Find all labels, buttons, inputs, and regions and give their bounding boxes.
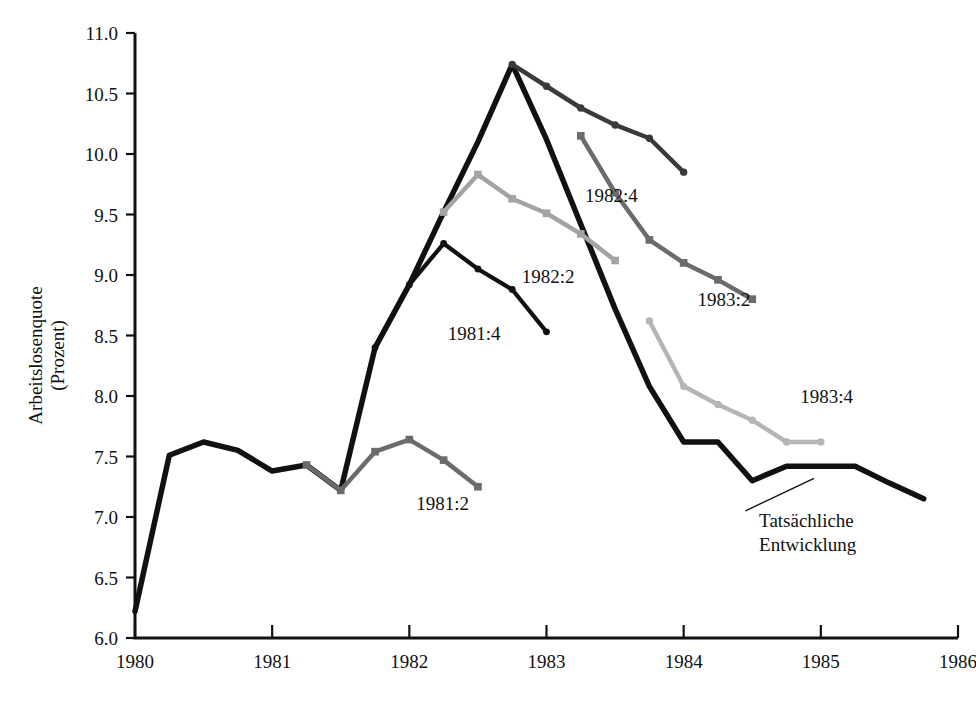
series-marker-square: [577, 132, 585, 140]
x-tick-label: 1983: [528, 651, 566, 672]
label-leader-line: [745, 478, 814, 511]
series-marker-square: [714, 276, 722, 284]
series-marker-circle: [714, 401, 721, 408]
series-marker-circle: [646, 135, 653, 142]
series-marker-square: [474, 483, 482, 491]
series-label-1983-2: 1983:2: [697, 289, 750, 310]
series-line: [581, 136, 752, 299]
series-marker-square: [337, 487, 345, 495]
x-tick-label: 1980: [116, 651, 154, 672]
axes-group: 11.010.510.09.59.08.58.07.57.06.56.01980…: [25, 23, 976, 672]
series-marker-square: [543, 209, 551, 217]
series-marker-square: [371, 448, 379, 456]
series-marker-circle: [611, 121, 618, 128]
y-tick-label: 6.0: [94, 628, 118, 649]
series-marker-square: [440, 456, 448, 464]
series-marker-square: [474, 171, 482, 179]
series-marker-square: [577, 230, 585, 238]
series-marker-circle: [680, 383, 687, 390]
y-axis-title-line1: Arbeitslosenquote: [25, 286, 46, 424]
series-label-1983-4: 1983:4: [800, 386, 853, 407]
series-marker-circle: [440, 240, 447, 247]
y-axis-title: Arbeitslosenquote(Prozent): [25, 286, 69, 424]
series-marker-circle: [577, 104, 584, 111]
series-marker-circle: [509, 286, 516, 293]
series-marker-square: [611, 257, 619, 265]
x-tick-label: 1982: [390, 651, 428, 672]
series-labels-group: TatsächlicheEntwicklung1981:21981:41982:…: [416, 185, 857, 554]
series-marker-circle: [680, 168, 687, 175]
series-marker-circle: [543, 328, 550, 335]
series-marker-circle: [509, 61, 516, 68]
series-marker-circle: [749, 417, 756, 424]
series-marker-circle: [646, 317, 653, 324]
y-tick-label: 10.5: [85, 84, 118, 105]
series-marker-circle: [372, 344, 379, 351]
series-marker-square: [440, 208, 448, 216]
series-marker-square: [646, 236, 654, 244]
series-marker-square: [406, 436, 414, 444]
series-marker-square: [680, 259, 688, 267]
series-label-tats-chliche-entwicklung-line2: Entwicklung: [759, 534, 857, 555]
y-tick-label: 8.0: [94, 386, 118, 407]
y-tick-label: 8.5: [94, 326, 118, 347]
x-tick-label: 1985: [802, 651, 840, 672]
series-label-1982-4: 1982:4: [585, 185, 638, 206]
series-marker-circle: [406, 281, 413, 288]
y-tick-label: 6.5: [94, 568, 118, 589]
series-label-tats-chliche-entwicklung: Tatsächliche: [759, 510, 854, 531]
y-tick-label: 7.5: [94, 447, 118, 468]
x-tick-label: 1981: [253, 651, 291, 672]
unemployment-forecast-chart: 11.010.510.09.59.08.58.07.57.06.56.01980…: [0, 0, 976, 702]
series-label-1982-2: 1982:2: [522, 266, 575, 287]
series-marker-circle: [474, 266, 481, 273]
y-tick-label: 10.0: [85, 144, 118, 165]
series-label-1981-2: 1981:2: [416, 493, 469, 514]
y-axis-title-line2: (Prozent): [47, 320, 69, 391]
y-tick-label: 9.5: [94, 205, 118, 226]
series-marker-square: [303, 461, 311, 469]
x-tick-label: 1984: [665, 651, 704, 672]
series-label-1981-4: 1981:4: [448, 323, 501, 344]
series-line: [306, 440, 477, 491]
series-marker-circle: [783, 438, 790, 445]
series-marker-square: [508, 195, 516, 203]
y-tick-label: 7.0: [94, 507, 118, 528]
series-marker-circle: [817, 438, 824, 445]
series-marker-circle: [543, 83, 550, 90]
y-tick-label: 9.0: [94, 265, 118, 286]
y-tick-label: 11.0: [85, 23, 118, 44]
chart-canvas: 11.010.510.09.59.08.58.07.57.06.56.01980…: [0, 0, 976, 702]
x-tick-label: 1986: [939, 651, 976, 672]
